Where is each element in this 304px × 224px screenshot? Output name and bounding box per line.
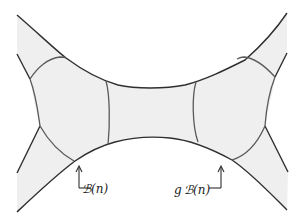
label-gb-n: g ℬ(n) xyxy=(174,184,210,196)
label-b-n: ℬ(n) xyxy=(82,183,108,195)
shaded-domain xyxy=(17,13,288,212)
arrow-gb-n xyxy=(209,166,224,188)
diagram-canvas xyxy=(0,0,304,224)
